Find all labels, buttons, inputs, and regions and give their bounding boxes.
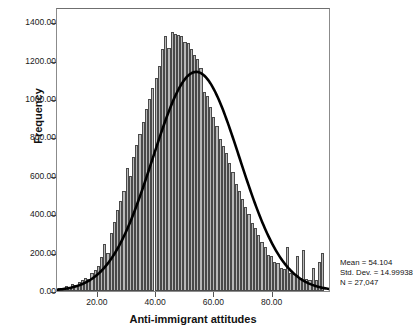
x-axis-tick-label: 20.00: [67, 297, 127, 307]
statistics-annotation: Mean = 54.104 Std. Dev. = 14.99938 N = 2…: [340, 258, 413, 289]
y-axis-tick-label: 1400.00: [8, 17, 56, 27]
y-axis-tick-label: 0.00: [8, 286, 56, 296]
histogram-chart: 0.00200.00400.00600.00800.001000.001200.…: [0, 0, 417, 334]
y-axis-tick-label: 200.00: [8, 248, 56, 258]
x-axis-title: Anti-immigrant attitudes: [56, 313, 330, 325]
x-axis-tick-label: 40.00: [125, 297, 185, 307]
y-axis: 0.00200.00400.00600.00800.001000.001200.…: [0, 0, 56, 334]
y-axis-tick-label: 400.00: [8, 209, 56, 219]
plot-area: [56, 8, 330, 292]
x-axis-tick-label: 80.00: [242, 297, 302, 307]
normal-distribution-curve: [57, 9, 329, 291]
stat-n: N = 27,047: [340, 278, 413, 288]
stat-std-dev: Std. Dev. = 14.99938: [340, 268, 413, 278]
y-axis-title: Frequency: [32, 56, 44, 176]
stat-mean: Mean = 54.104: [340, 258, 413, 268]
x-axis-tick-label: 60.00: [183, 297, 243, 307]
